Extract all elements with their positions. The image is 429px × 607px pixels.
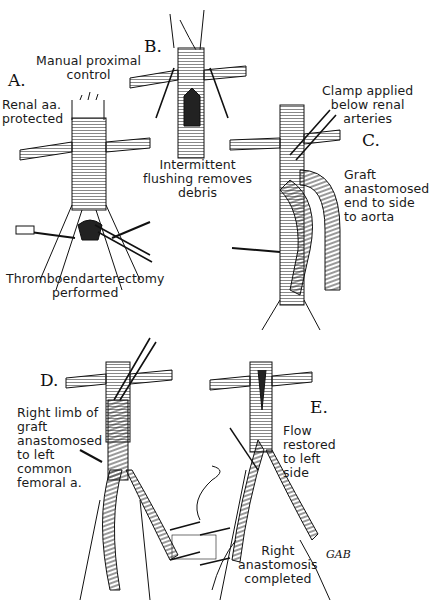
- panel-c-drawing: [230, 105, 340, 330]
- annotation-graft: Graft anastomosed end to side to aorta: [344, 168, 429, 224]
- annotation-renal-protected: Renal aa. protected: [2, 98, 63, 126]
- artist-signature: GAB: [326, 548, 351, 561]
- panel-label-e: E.: [310, 397, 328, 417]
- annotation-clamp: Clamp applied below renal arteries: [322, 84, 413, 126]
- panel-label-a: A.: [8, 70, 26, 90]
- panel-label-c: C.: [362, 130, 380, 150]
- annotation-flushing: Intermittent flushing removes debris: [143, 158, 252, 200]
- annotation-manual-control: Manual proximal control: [36, 54, 141, 82]
- panel-b-drawing: [130, 10, 246, 158]
- annotation-thromboendarterectomy: Thromboendarterectomy performed: [6, 272, 164, 300]
- femoral-clamps: [170, 466, 230, 565]
- panel-label-b: B.: [144, 36, 162, 56]
- panel-label-d: D.: [40, 370, 58, 390]
- annotation-flow: Flow restored to left side: [283, 424, 336, 480]
- annotation-right-limb: Right limb of graft anastomosed to left …: [17, 406, 102, 490]
- annotation-right-anastomosis: Right anastomosis completed: [238, 544, 318, 586]
